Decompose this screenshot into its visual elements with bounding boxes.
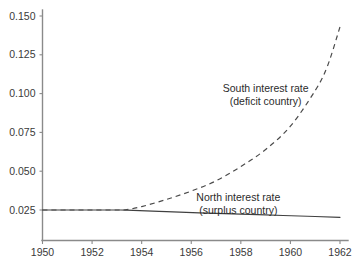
y-tick-label: 0.075 — [9, 126, 35, 138]
y-tick-label: 0.050 — [9, 165, 35, 177]
x-tick-label: 1956 — [180, 246, 204, 258]
y-tick-label: 0.150 — [9, 10, 35, 22]
y-tick-label: 0.100 — [9, 87, 35, 99]
chart-series-group — [43, 27, 341, 217]
north-annotation-line1: North interest rate — [196, 191, 280, 203]
north-annotation-line2: (surplus country) — [199, 204, 277, 216]
y-axis-ticks: 0.0250.0500.0750.1000.1250.150 — [9, 10, 43, 216]
x-tick-label: 1958 — [229, 246, 253, 258]
x-axis-ticks: 1950195219541956195819601962 — [31, 240, 352, 258]
x-tick-label: 1950 — [31, 246, 55, 258]
x-tick-label: 1954 — [130, 246, 154, 258]
south-annotation-line2: (deficit country) — [230, 95, 302, 107]
south-interest-rate-line — [43, 27, 341, 210]
chart-plot-area: 0.0250.0500.0750.1000.1250.150 195019521… — [0, 0, 360, 276]
chart-axes — [42, 10, 348, 241]
south-annotation-line1: South interest rate — [223, 82, 309, 94]
x-tick-label: 1960 — [279, 246, 303, 258]
interest-rate-chart: 0.0250.0500.0750.1000.1250.150 195019521… — [0, 0, 360, 276]
y-tick-label: 0.125 — [9, 48, 35, 60]
x-tick-label: 1952 — [80, 246, 104, 258]
series-annotations: South interest rate (deficit country) No… — [196, 82, 308, 216]
y-tick-label: 0.025 — [9, 204, 35, 216]
x-tick-label: 1962 — [328, 246, 352, 258]
north-interest-rate-line — [43, 210, 341, 217]
